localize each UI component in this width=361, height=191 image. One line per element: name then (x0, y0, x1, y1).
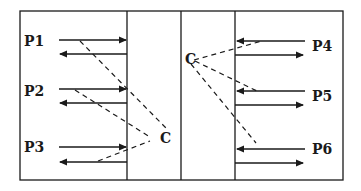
process-label-p6: P6 (312, 141, 332, 157)
coordinator-label-right: C (185, 51, 196, 67)
process-label-p5: P5 (312, 88, 332, 104)
coordinator-to-p6-dashed-line (191, 64, 256, 143)
process-label-p3: P3 (24, 139, 44, 155)
coordinator-to-p5-dashed-line (195, 61, 257, 91)
coordinator-label-left: C (160, 130, 171, 146)
process-label-p1: P1 (24, 33, 44, 49)
p2-to-coordinator-dashed-line (75, 90, 150, 137)
coordinator-to-p4-dashed-line (194, 41, 262, 60)
process-label-p2: P2 (24, 83, 44, 99)
diagram-canvas: P1 P2 P3 C P4 P5 P6 C (0, 0, 361, 191)
process-label-p4: P4 (312, 38, 333, 54)
p3-to-coordinator-dashed-line (98, 141, 150, 161)
left-panel: P1 P2 P3 C (24, 33, 171, 162)
right-panel: P4 P5 P6 C (185, 38, 333, 163)
